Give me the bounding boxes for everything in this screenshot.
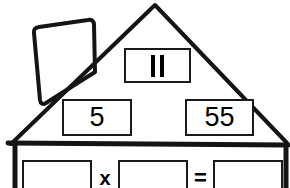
equation-result[interactable] — [213, 160, 283, 188]
equation-operand-1[interactable] — [22, 160, 92, 188]
product-cell[interactable] — [124, 48, 191, 83]
factor-cell-right[interactable]: 55 — [185, 99, 254, 136]
multiplication-symbol: x — [92, 160, 118, 188]
equals-symbol: = — [188, 160, 213, 188]
fact-family-house-worksheet: 5 55 x = — [0, 0, 290, 188]
equation-operand-2[interactable] — [118, 160, 188, 188]
factor-cell-left[interactable]: 5 — [62, 99, 132, 136]
roof-eave-line — [8, 143, 288, 145]
rotated-equals-icon — [151, 55, 164, 77]
